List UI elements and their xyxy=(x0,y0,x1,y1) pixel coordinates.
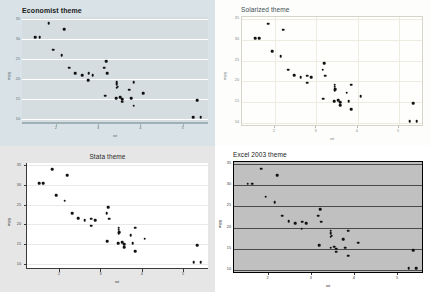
data-point xyxy=(63,28,66,31)
data-point xyxy=(324,74,327,77)
data-point xyxy=(357,241,360,244)
data-point xyxy=(412,102,415,105)
x-tick-mark-excel2003-0 xyxy=(268,273,269,275)
y-tick-label-excel2003-3: 20 xyxy=(217,225,231,229)
gridline-v-solarized-2 xyxy=(358,17,359,125)
data-point xyxy=(132,105,135,108)
y-tick-label-stata-3: 20 xyxy=(8,222,21,226)
y-tick-label-solarized-1: 30 xyxy=(225,37,239,41)
data-point xyxy=(251,182,254,185)
y-tick-label-excel2003-5: 10 xyxy=(217,267,231,271)
data-point xyxy=(258,37,261,40)
y-tick-label-excel2003-2: 25 xyxy=(217,203,231,207)
data-point xyxy=(64,199,67,202)
data-point xyxy=(306,81,309,84)
data-point xyxy=(280,55,283,58)
gridline-h-solarized-5 xyxy=(242,123,422,124)
data-point xyxy=(345,91,348,94)
data-point xyxy=(319,208,322,211)
x-tick-mark-economist-2 xyxy=(140,124,141,127)
gridline-h-stata-5 xyxy=(26,264,208,265)
y-tick-label-excel2003-0: 35 xyxy=(217,161,231,165)
x-tick-mark-excel2003-2 xyxy=(354,273,355,275)
plot-area-economist xyxy=(22,17,208,123)
gridline-h-solarized-4 xyxy=(242,102,422,103)
x-tick-label-stata-2: 4 xyxy=(141,272,143,276)
data-point xyxy=(134,226,137,229)
y-tick-label-economist-5: 10 xyxy=(8,117,20,121)
y-tick-mark-stata-4 xyxy=(24,244,27,245)
data-point xyxy=(38,36,41,39)
data-point xyxy=(123,246,126,249)
data-point xyxy=(117,242,120,245)
data-point xyxy=(142,92,145,95)
data-point xyxy=(335,250,338,253)
gridline-h-economist-5 xyxy=(22,119,208,120)
y-tick-label-economist-0: 35 xyxy=(8,17,20,21)
x-tick-mark-stata-0 xyxy=(59,269,60,272)
chart-title-excel2003: Excel 2003 theme xyxy=(233,151,287,158)
y-tick-label-stata-5: 10 xyxy=(8,262,21,266)
y-axis-line-stata xyxy=(26,163,27,268)
plot-area-solarized xyxy=(241,16,423,126)
gridline-h-economist-1 xyxy=(22,39,208,40)
gridline-h-stata-0 xyxy=(26,165,208,166)
chart-panel-excel2003: Excel 2003 theme mpg wt 3530252015102345 xyxy=(215,146,430,292)
data-point xyxy=(305,222,308,225)
data-point xyxy=(90,224,93,227)
data-point xyxy=(333,89,336,92)
data-point xyxy=(133,81,136,84)
data-point xyxy=(103,67,106,70)
data-point xyxy=(344,247,347,250)
data-point xyxy=(90,218,93,221)
chart-title-solarized: Solarized theme xyxy=(241,6,289,13)
data-point xyxy=(192,261,195,264)
data-point xyxy=(105,212,108,215)
data-point xyxy=(347,100,350,103)
data-point xyxy=(108,218,111,221)
x-tick-label-excel2003-3: 5 xyxy=(396,276,398,280)
data-point xyxy=(130,97,133,100)
data-point xyxy=(294,222,297,225)
data-point xyxy=(415,267,418,270)
y-tick-label-economist-4: 15 xyxy=(8,97,20,101)
data-point xyxy=(107,206,110,209)
data-point xyxy=(408,120,411,123)
data-point xyxy=(115,87,118,90)
x-tick-mark-solarized-1 xyxy=(315,126,316,128)
data-point xyxy=(415,120,418,123)
data-point xyxy=(94,219,97,222)
gridline-h-stata-3 xyxy=(26,224,208,225)
data-point xyxy=(196,244,199,247)
y-tick-label-excel2003-4: 15 xyxy=(217,246,231,250)
data-point xyxy=(92,74,95,77)
x-tick-mark-stata-2 xyxy=(142,269,143,272)
gridline-h-economist-2 xyxy=(22,59,208,60)
data-point xyxy=(34,36,37,39)
data-point xyxy=(293,74,296,77)
x-tick-label-stata-3: 5 xyxy=(182,272,184,276)
theme-comparison-grid: Economist theme mpg wt 3530252015102345 … xyxy=(0,0,430,292)
data-point xyxy=(329,247,332,250)
data-point xyxy=(342,238,345,241)
x-tick-mark-excel2003-3 xyxy=(397,273,398,275)
chart-panel-solarized: Solarized theme mpg wt 3530252015102345 xyxy=(215,0,430,146)
x-axis-title-excel2003: wt xyxy=(233,283,423,288)
x-axis-title-solarized: wt xyxy=(241,136,423,141)
data-point xyxy=(254,37,257,40)
x-tick-label-excel2003-1: 3 xyxy=(310,276,312,280)
gridline-v-solarized-3 xyxy=(399,17,400,125)
data-point xyxy=(359,95,362,98)
x-axis-line-stata xyxy=(26,268,208,269)
y-tick-label-economist-1: 30 xyxy=(8,37,20,41)
data-point xyxy=(134,250,137,253)
x-axis-title-economist: wt xyxy=(22,133,208,138)
gridline-h-excel2003-2 xyxy=(234,206,422,207)
chart-title-economist: Economist theme xyxy=(22,7,82,14)
gridline-h-economist-3 xyxy=(22,79,208,80)
data-point xyxy=(323,62,326,65)
gridline-v-solarized-0 xyxy=(275,17,276,125)
y-tick-label-stata-2: 25 xyxy=(8,203,21,207)
data-point xyxy=(105,60,108,63)
gridline-h-excel2003-4 xyxy=(234,249,422,250)
